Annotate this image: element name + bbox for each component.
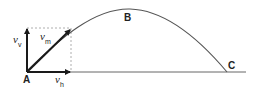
projectile-diagram: A B C vv vm vh [0, 0, 253, 95]
resultant-velocity-arrow [27, 30, 70, 72]
point-a-label: A [23, 74, 30, 85]
resultant-velocity-label: vm [40, 30, 51, 45]
point-c-label: C [228, 60, 235, 71]
vertical-velocity-label: vv [13, 33, 22, 48]
horizontal-velocity-label: vh [55, 73, 64, 88]
point-b-label: B [124, 12, 131, 23]
